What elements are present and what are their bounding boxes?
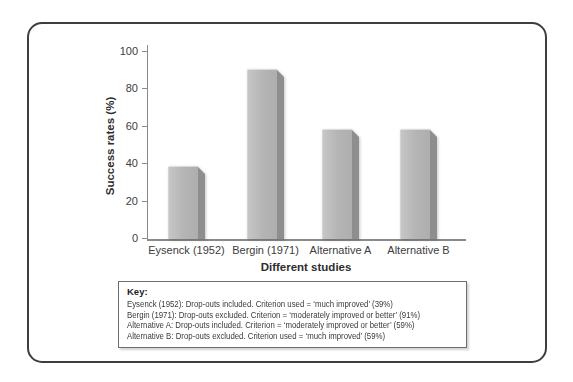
key-lines: Eysenck (1952): Drop-outs included. Crit…: [127, 299, 458, 341]
key-line: Alternative B: Drop-outs excluded. Crite…: [127, 331, 425, 342]
key-line: Alternative A: Drop-outs included. Crite…: [127, 320, 425, 331]
key-line: Bergin (1971): Drop-outs excluded. Crite…: [127, 310, 425, 321]
key-heading: Key:: [127, 286, 458, 298]
key-line: Eysenck (1952): Drop-outs included. Crit…: [127, 299, 425, 310]
figure: Success rates (%) 020406080100 Eysenck (…: [0, 0, 573, 382]
key-box: Key: Eysenck (1952): Drop-outs included.…: [118, 281, 467, 348]
